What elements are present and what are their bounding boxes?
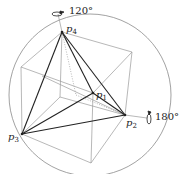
label-p4: p4 bbox=[66, 23, 77, 36]
label-p2: p2 bbox=[126, 117, 137, 130]
rotation-axes bbox=[42, 14, 147, 118]
diagram-svg: p4 p1 p2 p3 120° 180° bbox=[0, 0, 180, 174]
rotation-arrow-right-icon bbox=[147, 111, 151, 124]
label-p1: p1 bbox=[96, 89, 107, 102]
tetrahedron-diagram: p4 p1 p2 p3 120° 180° bbox=[0, 0, 180, 174]
angle-label-right: 180° bbox=[155, 111, 179, 122]
label-p3: p3 bbox=[8, 131, 19, 144]
sphere-outline bbox=[9, 14, 171, 174]
angle-label-top: 120° bbox=[69, 5, 93, 16]
